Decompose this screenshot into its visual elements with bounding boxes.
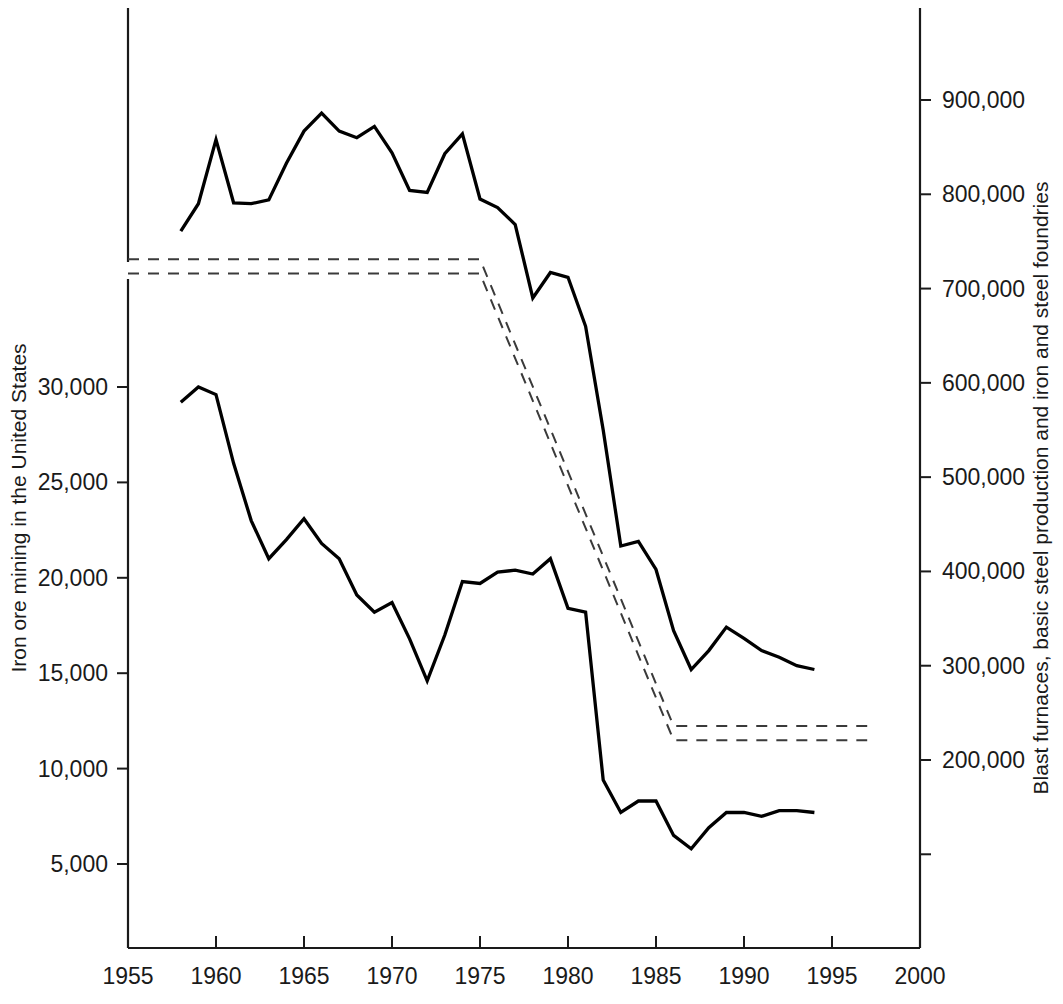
x-axis-tick-label: 1955	[102, 963, 153, 989]
axis-titles: Iron ore mining in the United StatesBlas…	[7, 182, 1052, 795]
right-axis-title: Blast furnaces, basic steel production a…	[1029, 182, 1052, 795]
right-axis-tick-label: 400,000	[942, 558, 1025, 584]
x-axis-tick-label: 2000	[894, 963, 945, 989]
chart-container: 5,00010,00015,00020,00025,00030,000 200,…	[0, 0, 1063, 1004]
series-line-iron-ore-mining-in-the-united-states	[181, 387, 815, 849]
series-line-confidence-band-upper	[128, 259, 867, 726]
right-axis-tick-label: 200,000	[942, 747, 1025, 773]
left-axis-tick-label: 30,000	[38, 374, 108, 400]
x-axis-tick-label: 1965	[278, 963, 329, 989]
left-axis-tick-label: 15,000	[38, 660, 108, 686]
x-axis-tick-label: 1975	[454, 963, 505, 989]
line-chart: 5,00010,00015,00020,00025,00030,000 200,…	[0, 0, 1063, 1004]
x-axis-tick-label: 1960	[190, 963, 241, 989]
left-axis-tick-label: 20,000	[38, 565, 108, 591]
left-axis: 5,00010,00015,00020,00025,00030,000	[38, 8, 128, 948]
x-axis-tick-label: 1980	[542, 963, 593, 989]
left-axis-tick-label: 10,000	[38, 756, 108, 782]
right-axis-tick-label: 600,000	[942, 370, 1025, 396]
x-axis-tick-label: 1970	[366, 963, 417, 989]
right-axis-tick-label: 800,000	[942, 181, 1025, 207]
left-axis-tick-label: 25,000	[38, 469, 108, 495]
right-axis-tick-label: 300,000	[942, 653, 1025, 679]
x-axis-tick-label: 1995	[806, 963, 857, 989]
right-axis-tick-label: 500,000	[942, 464, 1025, 490]
series-line-confidence-band-lower	[128, 274, 867, 741]
x-axis-tick-label: 1990	[718, 963, 769, 989]
right-axis-tick-label: 700,000	[942, 276, 1025, 302]
x-axis-tick-label: 1985	[630, 963, 681, 989]
left-axis-tick-label: 5,000	[50, 851, 108, 877]
series-line-blast-furnaces-basic-steel-production-and-iron-and-steel-foundries	[181, 113, 815, 669]
x-axis: 1955196019651970197519801985199019952000	[102, 936, 945, 989]
right-axis-tick-label: 900,000	[942, 87, 1025, 113]
right-axis: 200,000300,000400,000500,000600,000700,0…	[920, 8, 1025, 948]
series-group	[128, 113, 867, 849]
left-axis-title: Iron ore mining in the United States	[7, 343, 30, 672]
